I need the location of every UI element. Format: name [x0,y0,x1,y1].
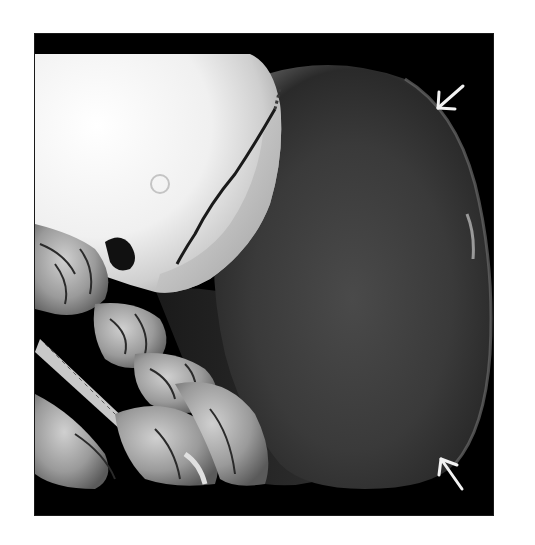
top-black-strip [35,34,494,54]
bottom-black-strip [35,489,494,516]
page [0,0,535,545]
figure-canvas [35,34,494,516]
ct-volume-rendering-figure [34,33,494,516]
